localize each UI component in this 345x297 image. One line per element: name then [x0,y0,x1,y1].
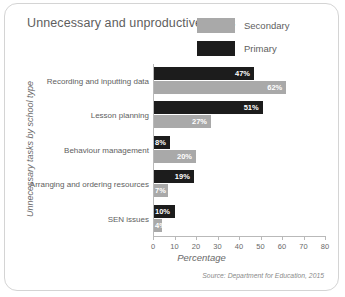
x-axis-tick-label: 50 [256,242,264,251]
bar-primary: 8% [153,136,170,149]
bar-value-label: 19% [175,172,194,181]
x-axis-tick [282,236,283,240]
bar-value-label: 62% [267,83,286,92]
x-axis-tick [239,236,240,240]
legend-swatch-secondary [197,18,235,33]
bar-primary: 47% [153,67,254,80]
bar-value-label: 27% [192,117,211,126]
x-axis-tick-label: 80 [321,242,329,251]
source-note: Source: Department for Education, 2015 [202,272,324,279]
bar-value-label: 4% [155,221,166,230]
bar-secondary: 4% [153,219,162,232]
category-label: SEN issues [108,215,149,224]
bar-primary: 19% [153,170,194,183]
bar-primary: 51% [153,101,263,114]
legend-item-secondary: Secondary [197,17,325,33]
x-axis-tick [218,236,219,240]
category-label: Arranging and ordering resources [30,180,149,189]
x-axis-tick [261,236,262,240]
bar-secondary: 62% [153,81,286,94]
bar-value-label: 10% [155,207,170,216]
plot-area: Recording and inputting dataLesson plann… [29,64,325,236]
category-label-column: Recording and inputting dataLesson plann… [29,64,153,236]
x-axis-tick-label: 0 [151,242,155,251]
bar-secondary: 7% [153,184,168,197]
y-axis-line [153,64,154,236]
x-axis-tick-label: 40 [235,242,243,251]
legend-label-secondary: Secondary [244,20,289,31]
legend-item-primary: Primary [197,40,325,56]
category-label: Recording and inputting data [47,77,149,86]
x-axis-tick-label: 60 [278,242,286,251]
bar-value-label: 8% [155,138,166,147]
bar-value-label: 51% [244,103,263,112]
x-axis-tick [175,236,176,240]
x-axis-tick-label: 70 [299,242,307,251]
x-axis-tick [325,236,326,240]
bar-primary: 10% [153,205,175,218]
x-axis-tick-label: 10 [170,242,178,251]
x-axis-tick-label: 20 [192,242,200,251]
x-axis-tick [304,236,305,240]
x-axis-tick [153,236,154,240]
category-label: Lesson planning [91,111,149,120]
bar-value-label: 20% [177,152,196,161]
chart-legend: Secondary Primary [197,17,325,63]
bar-secondary: 27% [153,115,211,128]
chart-card: Unnecessary and unproductive tasks Secon… [4,3,339,291]
bar-value-label: 7% [155,186,166,195]
category-label: Behaviour management [64,146,149,155]
bar-secondary: 20% [153,150,196,163]
legend-swatch-primary [197,41,235,56]
x-axis-title: Percentage [5,252,340,263]
x-axis-tick [196,236,197,240]
x-axis-line: 01020304050607080 [153,236,325,237]
legend-label-primary: Primary [244,43,277,54]
bar-value-label: 47% [235,69,254,78]
bar-column: 47%62%51%27%8%20%19%7%10%4% [153,64,325,236]
x-axis-tick-label: 30 [213,242,221,251]
